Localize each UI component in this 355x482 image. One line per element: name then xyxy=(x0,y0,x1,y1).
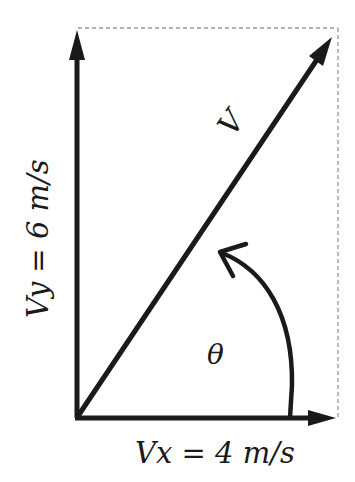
vx-arrow xyxy=(75,410,336,426)
vy-label: Vy = 6 m/s xyxy=(21,159,55,318)
angle-label: θ xyxy=(207,338,224,371)
vy-arrow xyxy=(69,30,85,418)
vx-label: Vx = 4 m/s xyxy=(135,436,295,470)
vector-label: V xyxy=(210,101,253,141)
vector-diagram: V θ Vy = 6 m/s Vx = 4 m/s xyxy=(0,0,355,482)
v-resultant-arrow xyxy=(78,37,332,416)
angle-arc xyxy=(220,244,292,418)
